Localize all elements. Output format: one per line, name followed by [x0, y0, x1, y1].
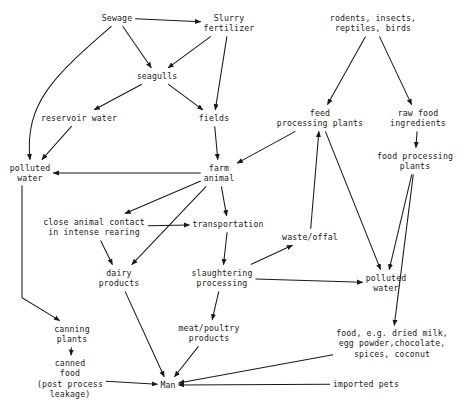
node-polluted-left: polluted water [10, 163, 51, 184]
node-food-plants: food processing plants [377, 151, 453, 172]
node-seagulls: seagulls [137, 71, 178, 81]
edge-raw-food-to-food-plants [416, 131, 417, 147]
edge-slaughtering-to-meat [212, 291, 219, 319]
node-feed-plants: feed processing plants [277, 108, 363, 129]
edge-farm-animal-to-close-contact [125, 181, 201, 214]
edge-farm-animal-to-transportation [221, 186, 226, 215]
edge-feed-plants-to-polluted-right [325, 131, 380, 269]
node-raw-food: raw food ingredients [390, 108, 446, 129]
edge-seagulls-to-reservoir [94, 84, 142, 110]
edge-dairy-to-man [125, 291, 164, 376]
node-transportation: transportation [192, 219, 263, 229]
node-dairy: dairy products [99, 268, 140, 289]
edge-meat-to-man [175, 346, 199, 376]
edge-slaughtering-to-polluted-right [256, 279, 363, 282]
edge-sewage-to-slurry [135, 19, 200, 22]
edge-feed-plants-to-farm-animal [237, 131, 295, 163]
node-polluted-right: polluted water [366, 273, 407, 294]
edge-close-contact-to-transportation [148, 225, 190, 226]
edge-canned-food-to-man [106, 381, 157, 384]
node-slaughtering: slaughtering processing [192, 268, 253, 289]
edge-slurry-to-fields [215, 36, 227, 109]
node-sewage: Sewage [102, 13, 132, 23]
node-rodents: rodents, insects, reptiles, birds [330, 13, 416, 34]
edge-food-examples-to-man [179, 355, 334, 383]
edge-sewage-to-seagulls [123, 26, 152, 68]
edge-fields-to-farm-animal [215, 126, 218, 159]
node-imported-pets: imported pets [333, 379, 399, 389]
node-farm-animal: farm animal [204, 163, 234, 184]
node-fields: fields [199, 113, 229, 123]
edge-slurry-to-seagulls [168, 36, 211, 67]
node-reservoir: reservoir water [41, 113, 117, 123]
node-close-contact: close animal contact in intense rearing [43, 217, 145, 238]
edge-imported-pets-to-man [179, 384, 330, 385]
node-man: Man [160, 380, 175, 390]
edge-reservoir-to-polluted-left [42, 126, 72, 159]
edge-seagulls-to-fields [168, 84, 203, 110]
node-slurry: Slurry fertilizer [204, 13, 255, 34]
flow-diagram: SewageSlurry fertilizerrodents, insects,… [0, 0, 470, 413]
edge-rodents-to-feed-plants [328, 36, 366, 104]
node-meat: meat/poultry products [179, 323, 240, 344]
edge-sewage-to-polluted-left [29, 26, 111, 159]
node-canning: canning plants [54, 324, 90, 345]
edge-food-plants-to-polluted-right [389, 174, 412, 269]
edge-slaughtering-to-waste-offal [251, 245, 293, 264]
node-waste-offal: waste/offal [282, 232, 338, 242]
edge-transportation-to-slaughtering [224, 232, 228, 264]
node-food-examples: food, e.g. dried milk, egg powder,chocol… [336, 328, 448, 359]
edge-close-contact-to-dairy [101, 240, 113, 264]
edge-polluted-left-to-canning [22, 185, 60, 320]
edge-food-plants-to-food-examples [394, 174, 413, 325]
edge-rodents-to-raw-food [379, 36, 411, 104]
edge-waste-offal-to-feed-plants [311, 131, 319, 228]
node-canned-food: canned food (post process leakage) [37, 358, 103, 400]
